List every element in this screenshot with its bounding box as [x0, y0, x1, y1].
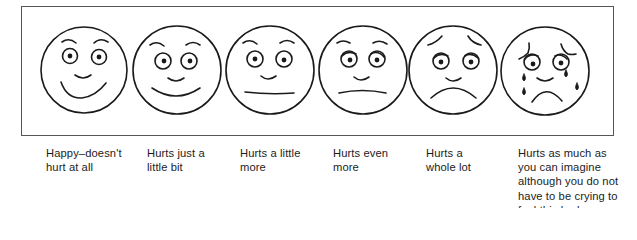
tear-drop-icon: [576, 83, 579, 90]
slight-smile-face-icon: [133, 26, 221, 114]
tear-drop-icon: [523, 74, 526, 81]
crying-face-icon: [501, 27, 589, 115]
label-worst: Hurts as much as you can imagine althoug…: [518, 146, 618, 208]
label-just-a-little: Hurts just a little bit: [147, 146, 205, 174]
label-even-more: Hurts even more: [333, 146, 388, 174]
label-happy: Happy–doesn't hurt at all: [46, 146, 122, 174]
sad-face-icon: [409, 26, 497, 114]
slight-frown-face-icon: [319, 26, 407, 114]
happy-face-icon: [41, 27, 127, 113]
label-little-more: Hurts a little more: [240, 146, 300, 174]
label-whole-lot: Hurts a whole lot: [426, 146, 471, 174]
neutral-face-icon: [226, 26, 314, 114]
tear-drop-icon: [523, 88, 526, 95]
tear-drop-icon: [565, 70, 568, 77]
